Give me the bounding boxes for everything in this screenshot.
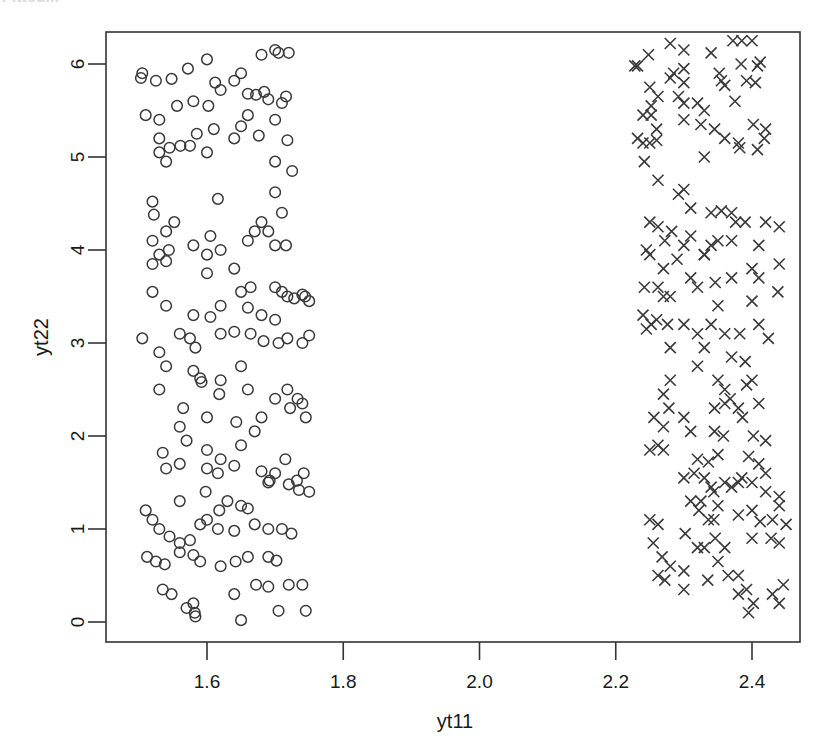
data-point-cross: [699, 105, 710, 116]
data-point-circle: [243, 302, 254, 313]
data-point-cross: [712, 500, 723, 511]
data-point-circle: [300, 412, 311, 423]
data-point-circle: [263, 226, 274, 237]
data-point-cross: [712, 300, 723, 311]
data-point-cross: [662, 319, 673, 330]
y-tick-label: 6: [67, 59, 88, 70]
data-point-circle: [283, 580, 294, 591]
data-point-circle: [236, 615, 247, 626]
data-point-cross: [695, 496, 706, 507]
data-point-cross: [659, 235, 670, 246]
data-point-cross: [695, 119, 706, 130]
data-point-cross: [639, 156, 650, 167]
data-point-circle: [215, 245, 226, 256]
data-point-cross: [708, 514, 719, 525]
data-point-circle: [236, 121, 247, 132]
data-point-cross: [752, 144, 763, 155]
data-point-cross: [736, 59, 747, 70]
data-point-cross: [730, 217, 741, 228]
data-point-cross: [760, 217, 771, 228]
data-point-cross: [678, 240, 689, 251]
data-point-circle: [236, 361, 247, 372]
data-point-cross: [643, 49, 654, 60]
data-point-circle: [245, 282, 256, 293]
data-point-cross: [753, 240, 764, 251]
data-point-cross: [678, 77, 689, 88]
data-point-circle: [205, 312, 216, 323]
data-point-circle: [215, 561, 226, 572]
data-point-circle: [277, 208, 288, 219]
data-point-circle: [270, 45, 281, 56]
data-point-circle: [282, 135, 293, 146]
x-tick-label: 2.4: [739, 671, 766, 692]
data-point-cross: [736, 472, 747, 483]
data-point-circle: [236, 68, 247, 79]
data-point-cross: [689, 468, 700, 479]
data-point-cross: [678, 184, 689, 195]
data-point-cross: [719, 80, 730, 91]
data-point-circle: [161, 361, 172, 372]
data-point-cross: [692, 542, 703, 553]
series-cluster-1: [136, 45, 315, 626]
data-point-cross: [767, 589, 778, 600]
data-point-circle: [157, 447, 168, 458]
data-point-circle: [149, 209, 160, 220]
data-point-circle: [203, 101, 214, 112]
data-point-circle: [191, 128, 202, 139]
data-point-cross: [726, 207, 737, 218]
data-point-cross: [658, 421, 669, 432]
data-point-circle: [137, 333, 148, 344]
data-point-cross: [699, 472, 710, 483]
data-point-cross: [714, 68, 725, 79]
data-point-circle: [243, 235, 254, 246]
data-point-cross: [648, 537, 659, 548]
data-point-circle: [202, 412, 213, 423]
plot-frame: [106, 32, 800, 642]
data-point-cross: [672, 254, 683, 265]
data-point-cross: [646, 319, 657, 330]
data-point-circle: [174, 496, 185, 507]
data-point-circle: [229, 460, 240, 471]
data-point-circle: [282, 384, 293, 395]
data-point-cross: [706, 319, 717, 330]
data-point-cross: [733, 510, 744, 521]
data-point-cross: [772, 286, 783, 297]
data-point-cross: [685, 426, 696, 437]
data-point-circle: [147, 235, 158, 246]
data-point-circle: [229, 263, 240, 274]
data-point-cross: [678, 472, 689, 483]
data-point-cross: [741, 379, 752, 390]
x-tick-label: 2.0: [466, 671, 492, 692]
data-point-cross: [710, 277, 721, 288]
data-point-cross: [774, 221, 785, 232]
data-point-cross: [747, 477, 758, 488]
data-point-circle: [249, 226, 260, 237]
data-point-cross: [759, 133, 770, 144]
data-point-cross: [740, 356, 751, 367]
data-point-circle: [297, 580, 308, 591]
data-point-cross: [678, 63, 689, 74]
data-point-cross: [706, 47, 717, 58]
data-point-cross: [726, 235, 737, 246]
data-point-circle: [215, 301, 226, 312]
data-point-cross: [763, 333, 774, 344]
data-point-circle: [243, 503, 254, 514]
data-point-circle: [298, 468, 309, 479]
data-point-cross: [665, 342, 676, 353]
data-point-cross: [748, 431, 759, 442]
x-tick-label: 2.2: [603, 671, 629, 692]
data-point-cross: [702, 575, 713, 586]
data-point-cross: [774, 491, 785, 502]
data-point-circle: [282, 333, 293, 344]
data-point-circle: [270, 187, 281, 198]
data-point-cross: [733, 570, 744, 581]
data-point-cross: [710, 533, 721, 544]
data-point-circle: [281, 240, 292, 251]
data-point-cross: [699, 249, 710, 260]
data-point-circle: [210, 77, 221, 88]
data-point-circle: [283, 48, 294, 59]
data-point-cross: [774, 258, 785, 269]
data-point-circle: [161, 301, 172, 312]
data-point-circle: [147, 287, 158, 298]
data-point-cross: [693, 505, 704, 516]
